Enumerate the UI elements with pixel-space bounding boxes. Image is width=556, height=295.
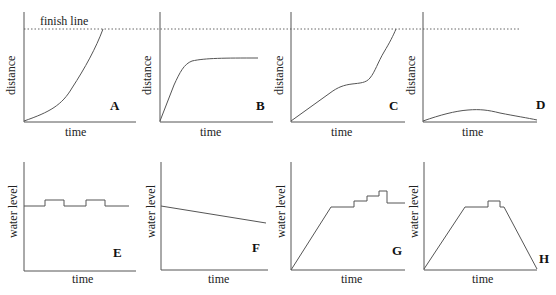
x-axis-label: time bbox=[462, 125, 483, 139]
panel-d: distance time D bbox=[404, 12, 545, 139]
curve-e bbox=[24, 200, 129, 206]
x-axis-label: time bbox=[72, 272, 93, 286]
panel-letter: F bbox=[252, 240, 260, 255]
panel-h: water level time H bbox=[407, 162, 549, 286]
x-axis-label: time bbox=[341, 272, 362, 286]
x-axis-label: time bbox=[65, 125, 86, 139]
curve-g bbox=[291, 191, 405, 270]
panel-g: water level time G bbox=[274, 162, 405, 286]
y-axis-label: distance bbox=[140, 56, 154, 95]
panel-b: distance time B bbox=[140, 12, 273, 139]
y-axis-label: water level bbox=[6, 184, 20, 238]
panel-a: distance time A bbox=[4, 12, 136, 139]
curve-b bbox=[160, 58, 258, 121]
x-axis-label: time bbox=[200, 125, 221, 139]
x-axis-label: time bbox=[472, 272, 493, 286]
panel-letter: G bbox=[392, 243, 402, 258]
y-axis-label: distance bbox=[4, 56, 18, 95]
x-axis-label: time bbox=[208, 272, 229, 286]
y-axis-label: distance bbox=[272, 56, 286, 95]
panel-letter: C bbox=[389, 98, 398, 113]
curve-h bbox=[424, 201, 537, 269]
panel-letter: E bbox=[113, 245, 122, 260]
y-axis-label: water level bbox=[274, 184, 288, 238]
finish-line-label: finish line bbox=[40, 14, 88, 28]
graph-sketches-figure: finish line distance time A distance tim… bbox=[0, 0, 556, 295]
x-axis-label: time bbox=[331, 125, 352, 139]
panel-letter: B bbox=[256, 98, 265, 113]
curve-d bbox=[423, 110, 537, 121]
panel-c: distance time C bbox=[272, 12, 405, 139]
panel-e: water level time E bbox=[6, 162, 136, 286]
panel-letter: A bbox=[110, 98, 120, 113]
curve-f bbox=[161, 206, 266, 223]
panel-letter: H bbox=[539, 251, 549, 266]
y-axis-label: water level bbox=[407, 184, 421, 238]
curve-a bbox=[24, 29, 103, 121]
y-axis-label: distance bbox=[404, 56, 418, 95]
curve-c bbox=[291, 29, 396, 121]
panel-f: water level time F bbox=[144, 162, 268, 286]
panel-letter: D bbox=[536, 97, 545, 112]
y-axis-label: water level bbox=[144, 184, 158, 238]
